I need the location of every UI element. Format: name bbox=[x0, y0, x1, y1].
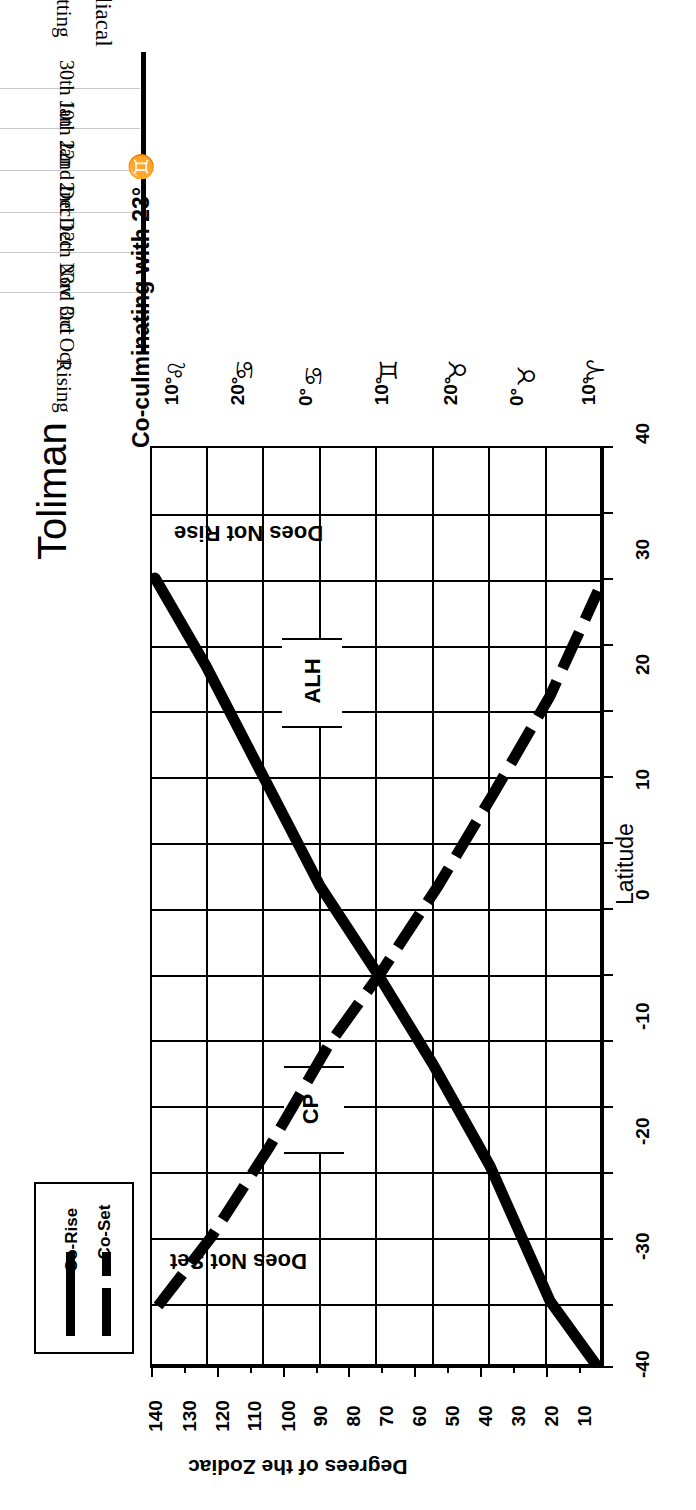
legend-swatch-co-rise bbox=[66, 1252, 75, 1336]
legend-swatch-co-set-dash2 bbox=[102, 1288, 111, 1336]
y-axis-tick-label: 140 bbox=[145, 1400, 167, 1432]
y-axis-tick bbox=[217, 1368, 219, 1377]
y-axis-tick-label: 40 bbox=[475, 1405, 497, 1426]
x-axis-tick-label: 40 bbox=[632, 423, 654, 444]
x-axis-tick-label: 20 bbox=[632, 654, 654, 675]
y-axis-tick bbox=[414, 1368, 416, 1377]
y-axis-tick-label: 110 bbox=[244, 1401, 266, 1432]
legend-swatch-co-set-dash1 bbox=[102, 1252, 111, 1276]
y-axis-tick-label: 70 bbox=[376, 1405, 398, 1426]
y-axis-tick bbox=[316, 1368, 318, 1373]
y-axis-tick bbox=[283, 1368, 285, 1377]
zodiac-sign-gemini: ♊ bbox=[375, 359, 403, 381]
x-axis-tick bbox=[604, 974, 613, 976]
x-axis-tick-label: 10 bbox=[632, 769, 654, 790]
y-axis-tick-label: 80 bbox=[343, 1405, 365, 1426]
y-axis-title: Degrees of the Zodiac bbox=[188, 1455, 407, 1479]
zodiac-sign-cancer: ♋ bbox=[231, 359, 259, 381]
y-axis-tick-label: 10 bbox=[574, 1405, 596, 1426]
zodiac-sign-taurus: ♉ bbox=[444, 359, 472, 381]
y-axis-tick-label: 130 bbox=[179, 1400, 201, 1432]
x-axis-tick bbox=[604, 1040, 613, 1042]
y-axis-tick bbox=[348, 1368, 350, 1377]
y-axis-tick-label: 120 bbox=[212, 1400, 234, 1432]
y-axis-tick bbox=[250, 1368, 252, 1373]
chart-title: Toliman bbox=[30, 422, 75, 560]
y-axis-tick bbox=[480, 1368, 482, 1377]
x-axis-tick-label: -20 bbox=[632, 1118, 654, 1145]
x-axis-tick bbox=[604, 1304, 613, 1306]
x-axis-tick-label: -30 bbox=[632, 1233, 654, 1260]
y-axis-tick-label: 30 bbox=[508, 1405, 530, 1426]
zodiac-sign-aries: ♈ bbox=[582, 359, 610, 381]
x-axis-tick bbox=[604, 644, 613, 646]
chart-legend: Co-Rise Co-Set bbox=[34, 1182, 134, 1354]
x-axis-tick-label: 0 bbox=[632, 889, 654, 900]
x-axis-tick bbox=[604, 908, 613, 910]
x-axis-line bbox=[602, 446, 604, 1368]
x-axis-tick bbox=[604, 842, 613, 844]
x-axis-tick bbox=[604, 776, 613, 778]
chart: Toliman Co-culminating with 23° ♊ Latitu… bbox=[0, 0, 696, 1510]
y-axis-tick bbox=[381, 1368, 383, 1373]
y-axis-tick bbox=[546, 1368, 548, 1377]
x-axis-tick bbox=[604, 710, 613, 712]
zodiac-degree-label: 0° bbox=[506, 388, 528, 406]
y-axis-tick-label: 20 bbox=[541, 1405, 563, 1426]
y-axis-tick bbox=[513, 1368, 515, 1373]
x-axis-tick bbox=[604, 512, 613, 514]
x-axis-tick bbox=[604, 1366, 613, 1368]
zodiac-degree-label: 0° bbox=[295, 388, 317, 406]
zodiac-degree-label: 10° bbox=[371, 377, 393, 406]
x-axis-tick-label: 30 bbox=[632, 539, 654, 560]
x-axis-tick bbox=[604, 1172, 613, 1174]
x-axis-tick-label: -10 bbox=[632, 1003, 654, 1030]
y-axis-tick bbox=[151, 1368, 153, 1377]
series-overlay bbox=[150, 446, 602, 1366]
x-axis-tick bbox=[604, 1106, 613, 1108]
zodiac-degree-label: 10° bbox=[578, 377, 600, 406]
cocul-annotation: Co-culminating with 23° ♊ bbox=[128, 152, 155, 448]
zodiac-degree-label: 20° bbox=[440, 377, 462, 406]
y-axis-tick-label: 50 bbox=[442, 1405, 464, 1426]
zodiac-sign-leo: ♌ bbox=[163, 359, 191, 381]
x-axis-tick bbox=[604, 578, 613, 580]
zodiac-degree-label: 20° bbox=[227, 377, 249, 406]
y-axis-tick-label: 100 bbox=[278, 1400, 300, 1432]
zodiac-sign-cancer: ♋ bbox=[300, 365, 328, 387]
y-axis-tick bbox=[579, 1368, 581, 1373]
zodiac-sign-taurus: ♉ bbox=[513, 365, 541, 387]
x-axis-tick bbox=[604, 1238, 613, 1240]
zodiac-degree-label: 10° bbox=[161, 377, 183, 406]
x-axis-tick-label: -40 bbox=[632, 1351, 654, 1378]
x-axis-tick bbox=[604, 446, 613, 448]
y-axis-tick-label: 60 bbox=[409, 1405, 431, 1426]
y-axis-tick-label: 90 bbox=[310, 1405, 332, 1426]
y-axis-tick bbox=[447, 1368, 449, 1373]
y-axis-tick bbox=[184, 1368, 186, 1373]
